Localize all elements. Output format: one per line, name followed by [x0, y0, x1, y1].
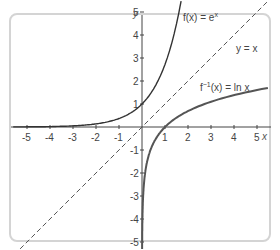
x-tick-label: 5: [254, 132, 260, 143]
y-tick-label: -1: [130, 145, 139, 156]
x-tick-label: 3: [208, 132, 214, 143]
x-tick-label: -5: [22, 132, 31, 143]
ln-function-sup: −1: [203, 81, 211, 88]
x-tick-label: -3: [68, 132, 77, 143]
ln-function-text: (x) = ln x: [211, 82, 250, 93]
identity-line: [20, 1, 268, 249]
ln-curve: [142, 88, 268, 249]
x-tick-label: -1: [114, 132, 123, 143]
x-tick-label: 2: [185, 132, 191, 143]
exp-function-text: f(x) = e: [183, 12, 215, 23]
x-tick-label: -2: [91, 132, 100, 143]
y-tick-label: 4: [133, 30, 139, 41]
exp-function-label: f(x) = ex: [183, 11, 218, 23]
exp-function-sup: x: [214, 11, 218, 18]
y-tick-label: -2: [130, 168, 139, 179]
y-tick-label: 3: [133, 53, 139, 64]
x-tick-label: 4: [231, 132, 237, 143]
y-axis-label: y: [132, 8, 139, 19]
exp-curve: [13, 1, 181, 127]
y-tick-label: -4: [130, 214, 139, 225]
x-axis-label: x: [261, 131, 268, 142]
y-tick-label: 2: [133, 76, 139, 87]
ln-function-label: f−1(x) = ln x: [200, 81, 249, 93]
series-group: [13, 1, 268, 249]
x-tick-label: 1: [162, 132, 168, 143]
x-tick-label: -4: [45, 132, 54, 143]
y-tick-label: -5: [130, 237, 139, 248]
identity-line-label: y = x: [236, 43, 257, 54]
function-plot: -5-4-3-2-11234554321-1-2-3-4-5 x y f(x) …: [0, 0, 280, 250]
y-tick-label: -3: [130, 191, 139, 202]
